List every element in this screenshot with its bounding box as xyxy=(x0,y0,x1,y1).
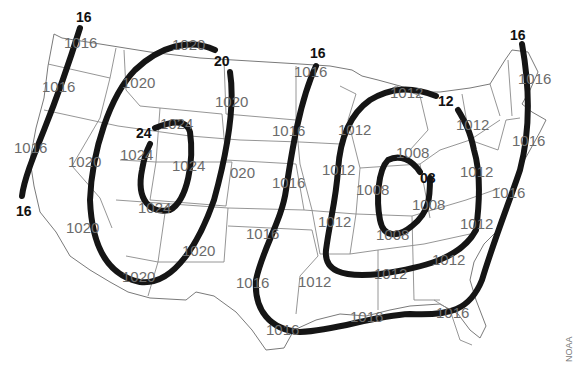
station-value: 1012 xyxy=(390,84,423,101)
station-value: 1012 xyxy=(460,163,493,180)
isobar-label: 20 xyxy=(214,53,230,69)
station-value: 1016 xyxy=(272,174,305,191)
station-value: 1016 xyxy=(64,34,97,51)
station-value: 1020 xyxy=(172,36,205,53)
station-value: 1024 xyxy=(172,157,205,174)
station-value: 1020 xyxy=(66,219,99,236)
weather-map: 1016 10161016102010201020102410241024020… xyxy=(0,0,580,375)
credit-label: NOAA xyxy=(564,336,574,362)
isobar-label: 12 xyxy=(438,93,454,109)
isobar-label: 16 xyxy=(16,203,32,219)
isobar-label: 16 xyxy=(510,27,526,43)
station-value: 1016 xyxy=(42,78,75,95)
isobar-label: 24 xyxy=(136,125,152,141)
station-value: 1016 xyxy=(512,132,545,149)
station-value: 1024 xyxy=(138,199,171,216)
station-value: 1020 xyxy=(182,242,215,259)
station-value: 1012 xyxy=(460,215,493,232)
station-value: 1016 xyxy=(294,63,327,80)
station-value: 1024 xyxy=(120,146,153,163)
station-value: 1016 xyxy=(492,184,525,201)
station-value: 1008 xyxy=(396,144,429,161)
station-value: 1008 xyxy=(356,181,389,198)
isobar-label: 16 xyxy=(76,9,92,25)
station-value: 1012 xyxy=(456,116,489,133)
station-value: 1012 xyxy=(374,265,407,282)
station-value: 1024 xyxy=(160,115,193,132)
station-value: 1020 xyxy=(122,74,155,91)
station-value: 1016 xyxy=(236,274,269,291)
station-value: 1008 xyxy=(376,226,409,243)
isobar-label: 16 xyxy=(310,45,326,61)
station-values: 1016 xyxy=(64,34,97,51)
station-value: 020 xyxy=(230,164,255,181)
station-value: 1016 xyxy=(436,304,469,321)
station-value: 1012 xyxy=(338,121,371,138)
station-value: 1012 xyxy=(322,161,355,178)
isobar-label: 08 xyxy=(420,170,436,186)
station-value: 1012 xyxy=(432,251,465,268)
station-value: 1016 xyxy=(14,139,47,156)
station-value: 1016 xyxy=(350,308,383,325)
station-value: 1012 xyxy=(298,273,331,290)
station-value: 1020 xyxy=(68,153,101,170)
station-value: 1012 xyxy=(318,213,351,230)
station-value: 1016 xyxy=(272,122,305,139)
map-canvas: 1016 10161016102010201020102410241024020… xyxy=(0,0,580,375)
station-value: 1020 xyxy=(215,93,248,110)
station-value: 1016 xyxy=(266,321,299,338)
station-value: 1016 xyxy=(518,70,551,87)
station-value: 1008 xyxy=(412,196,445,213)
station-value: 1020 xyxy=(122,268,155,285)
station-value: 1016 xyxy=(246,225,279,242)
